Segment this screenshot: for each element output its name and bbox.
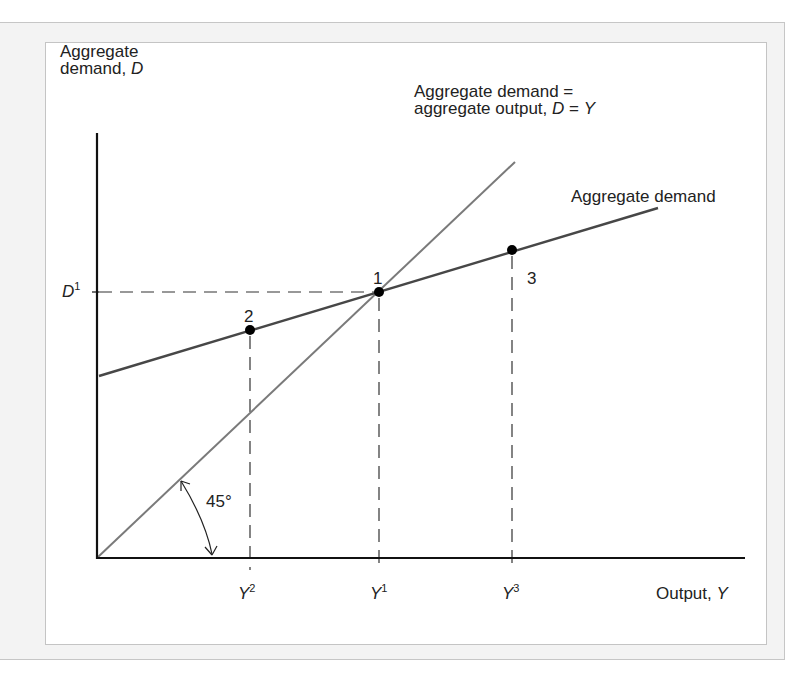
line-45-label-line2: aggregate output, D = Y [414,100,595,118]
y-axis-label-text: demand, [60,59,131,78]
y-axis-label-line2: demand, D [60,60,143,78]
line-45-label-y: Y [584,99,595,118]
line-45-label-d: D [552,99,564,118]
point-1-label: 1 [373,270,382,288]
point-2-label: 2 [244,308,253,326]
line-45-label-eq: = [564,99,583,118]
line-45-label-text: aggregate output, [414,99,552,118]
y1-sup: 1 [381,582,387,594]
point-3-marker [507,245,517,255]
y3-tick-label: Y3 [502,585,519,603]
point-2-marker [245,325,255,335]
y2-var: Y [238,584,249,603]
x-axis-label-text: Output, [656,584,716,603]
y3-var: Y [502,584,513,603]
x-axis-label: Output, Y [656,585,728,603]
y1-var: Y [370,584,381,603]
y3-sup: 3 [513,582,519,594]
point-1-marker [374,287,384,297]
y2-tick-label: Y2 [238,585,255,603]
x-axis-label-var: Y [716,584,727,603]
line-45-degree [98,162,515,557]
angle-label: 45° [206,493,232,511]
d1-tick-label: D1 [62,283,80,301]
y2-sup: 2 [249,582,255,594]
aggregate-demand-label: Aggregate demand [571,188,716,206]
d1-sup: 1 [74,280,80,292]
d1-var: D [62,282,74,301]
point-3-label: 3 [527,270,536,288]
y-axis-label-var: D [131,59,143,78]
y1-tick-label: Y1 [370,585,387,603]
